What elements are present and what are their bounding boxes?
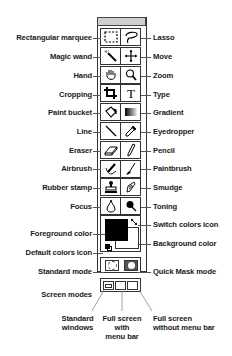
tool-toning[interactable] [120, 197, 141, 215]
tool-lasso[interactable] [120, 28, 141, 46]
toolbox-title-bar[interactable] [97, 17, 146, 26]
label-standard-windows: Standard windows [55, 314, 100, 332]
tool-cropping[interactable] [100, 84, 121, 102]
mode-panel [100, 257, 141, 273]
standard-windows-button[interactable] [103, 281, 114, 290]
label-magic-wand: Magic wand [50, 52, 92, 61]
tool-focus[interactable] [100, 197, 121, 215]
lasso-icon [123, 30, 139, 44]
label-eraser: Eraser [69, 146, 92, 155]
tool-line[interactable] [100, 122, 121, 140]
tool-hand[interactable] [100, 66, 121, 84]
paint-bucket-icon [103, 105, 119, 119]
rectangular-marquee-icon [103, 30, 119, 44]
screen-modes-panel [100, 278, 141, 292]
gradient-icon [123, 105, 139, 119]
full-screen-with-menu-button[interactable] [115, 281, 126, 290]
foreground-color-swatch[interactable] [105, 219, 128, 241]
label-rubber-stamp: Rubber stamp [42, 183, 92, 192]
label-gradient: Gradient [153, 108, 183, 117]
full-screen-without-menu-button[interactable] [127, 281, 138, 290]
label-quick-mask-mode: Quick Mask mode [153, 267, 216, 276]
quick-mask-mode-button[interactable] [124, 260, 138, 271]
label-eyedropper: Eyedropper [153, 127, 194, 136]
label-line: windows [55, 323, 100, 332]
label-line: without menu bar [153, 323, 215, 332]
rubber-stamp-icon [103, 180, 119, 194]
standard-mode-button[interactable] [105, 260, 119, 271]
type-icon: T [123, 86, 139, 100]
label-pencil: Pencil [153, 146, 175, 155]
tool-pencil[interactable] [120, 141, 141, 159]
eyedropper-icon [123, 124, 139, 138]
label-focus: Focus [70, 202, 92, 211]
line-icon [103, 124, 119, 138]
quick-mask-mode-icon [128, 262, 135, 269]
label-hand: Hand [73, 71, 92, 80]
tool-type[interactable]: T [120, 84, 141, 102]
svg-text:T: T [127, 86, 135, 100]
label-smudge: Smudge [153, 183, 182, 192]
label-line: Full screen [153, 314, 215, 323]
tool-move[interactable] [120, 47, 141, 65]
label-default-colors-icon: Default colors icon [26, 248, 92, 257]
eraser-icon [103, 143, 119, 157]
label-line: menu bar [99, 332, 145, 341]
label-paintbrush: Paintbrush [153, 164, 192, 173]
label-screen-modes: Screen modes [41, 290, 92, 299]
hand-icon [103, 68, 119, 82]
paintbrush-icon [123, 162, 139, 176]
label-foreground-color: Foreground color [30, 229, 92, 238]
zoom-icon [123, 68, 139, 82]
label-line: Full screen [99, 314, 145, 323]
tool-rectangular-marquee[interactable] [100, 28, 121, 46]
default-colors-icon[interactable] [105, 244, 112, 251]
pencil-icon [123, 143, 139, 157]
label-paint-bucket: Paint bucket [48, 108, 92, 117]
tool-paintbrush[interactable] [120, 160, 141, 178]
toning-icon [123, 199, 139, 213]
standard-mode-icon [108, 261, 117, 270]
label-standard-mode: Standard mode [38, 267, 92, 276]
label-airbrush: Airbrush [61, 164, 92, 173]
tool-rubber-stamp[interactable] [100, 178, 121, 196]
label-move: Move [153, 52, 172, 61]
tool-airbrush[interactable] [100, 160, 121, 178]
airbrush-icon [103, 162, 119, 176]
label-type: Type [153, 90, 170, 99]
tool-smudge[interactable] [120, 178, 141, 196]
label-full-screen-without-menu: Full screen without menu bar [153, 314, 215, 332]
crop-icon [103, 86, 119, 100]
label-background-color: Background color [153, 239, 216, 248]
label-line: with [99, 323, 145, 332]
tool-eraser[interactable] [100, 141, 121, 159]
color-panel [100, 215, 141, 252]
label-zoom: Zoom [153, 71, 173, 80]
label-line: Standard [55, 314, 100, 323]
label-line: Line [77, 127, 92, 136]
label-lasso: Lasso [153, 33, 174, 42]
tool-paint-bucket[interactable] [100, 103, 121, 121]
tool-zoom[interactable] [120, 66, 141, 84]
tool-gradient[interactable] [120, 103, 141, 121]
tool-magic-wand[interactable] [100, 47, 121, 65]
label-cropping: Cropping [59, 90, 92, 99]
focus-icon [103, 199, 119, 213]
magic-wand-icon [103, 49, 119, 63]
standard-windows-icon [105, 284, 112, 288]
move-icon [123, 49, 139, 63]
label-switch-colors-icon: Switch colors icon [153, 220, 218, 229]
label-rectangular-marquee: Rectangular marquee [16, 33, 92, 42]
tool-eyedropper[interactable] [120, 122, 141, 140]
smudge-icon [123, 180, 139, 194]
label-toning: Toning [153, 202, 177, 211]
label-full-screen-with-menu: Full screen with menu bar [99, 314, 145, 341]
